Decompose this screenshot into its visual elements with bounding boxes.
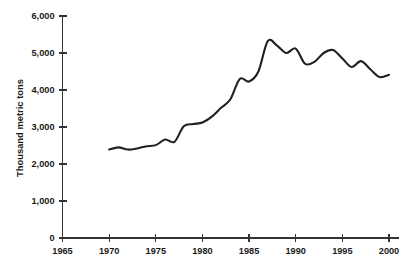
x-tick-label: 1995 [332, 246, 352, 256]
x-tick-label: 1990 [285, 246, 305, 256]
x-tick-label: 2000 [379, 246, 399, 256]
y-tick-label: 4,000 [32, 85, 55, 95]
y-tick-label: 3,000 [32, 122, 55, 132]
y-tick-label: 5,000 [32, 48, 55, 58]
y-tick-label: 1,000 [32, 196, 55, 206]
x-tick-label: 1970 [99, 246, 119, 256]
x-tick-label: 1975 [146, 246, 166, 256]
x-tick-label: 1980 [192, 246, 212, 256]
x-tick-label: 1985 [239, 246, 259, 256]
x-axis-ticks: 19651970197519801985199019952000 [52, 234, 399, 256]
x-tick-label: 1965 [52, 246, 72, 256]
line-chart: Thousand metric tons 01,0002,0003,0004,0… [0, 0, 409, 271]
data-series-line [109, 40, 389, 150]
y-axis-ticks: 01,0002,0003,0004,0005,0006,000 [32, 11, 67, 243]
y-tick-label: 0 [49, 233, 54, 243]
chart-canvas: Thousand metric tons 01,0002,0003,0004,0… [0, 0, 409, 271]
y-tick-label: 6,000 [32, 11, 55, 21]
y-tick-label: 2,000 [32, 159, 55, 169]
y-axis-title: Thousand metric tons [14, 79, 25, 177]
